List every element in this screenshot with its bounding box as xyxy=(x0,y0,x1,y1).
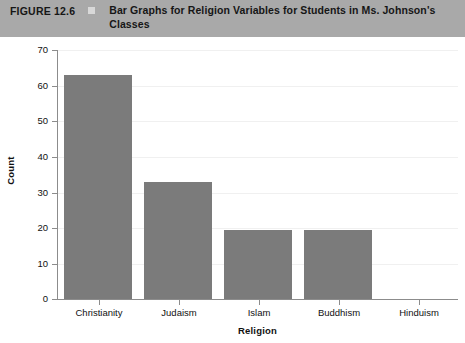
x-tick-label-islam: Islam xyxy=(248,307,271,318)
y-tick-label-0: 0 xyxy=(8,293,48,304)
x-tick-mark-judaism xyxy=(179,300,180,305)
figure-caption: Bar Graphs for Religion Variables for St… xyxy=(109,3,439,31)
y-tick-label-40: 40 xyxy=(8,151,48,162)
x-tick-label-christianity: Christianity xyxy=(76,307,123,318)
x-tick-mark-hinduism xyxy=(419,300,420,305)
gridline-70 xyxy=(58,50,458,51)
x-tick-mark-christianity xyxy=(99,300,100,305)
bar-islam xyxy=(224,230,292,299)
y-tick-label-60: 60 xyxy=(8,80,48,91)
x-axis-line xyxy=(57,299,458,300)
x-tick-label-hinduism: Hinduism xyxy=(399,307,439,318)
figure-number-label: FIGURE 12.6 xyxy=(10,3,75,18)
y-tick-label-30: 30 xyxy=(8,187,48,198)
x-tick-label-judaism: Judaism xyxy=(161,307,196,318)
y-tick-label-20: 20 xyxy=(8,222,48,233)
chart-plot-area: Count 70 60 50 40 30 20 10 0 xyxy=(0,37,465,343)
y-axis-line xyxy=(57,50,58,300)
x-tick-mark-islam xyxy=(259,300,260,305)
y-tick-label-10: 10 xyxy=(8,258,48,269)
figure-header-band: FIGURE 12.6 Bar Graphs for Religion Vari… xyxy=(0,0,465,37)
bar-judaism xyxy=(144,182,212,299)
bar-buddhism xyxy=(304,230,372,299)
x-axis-title: Religion xyxy=(57,325,458,336)
x-tick-mark-buddhism xyxy=(339,300,340,305)
square-marker-icon xyxy=(88,7,95,14)
figure-header-content: FIGURE 12.6 Bar Graphs for Religion Vari… xyxy=(10,3,457,31)
y-tick-label-50: 50 xyxy=(8,115,48,126)
x-tick-label-buddhism: Buddhism xyxy=(318,307,360,318)
bar-christianity xyxy=(64,75,132,299)
y-tick-label-70: 70 xyxy=(8,44,48,55)
figure-container: FIGURE 12.6 Bar Graphs for Religion Vari… xyxy=(0,0,465,343)
